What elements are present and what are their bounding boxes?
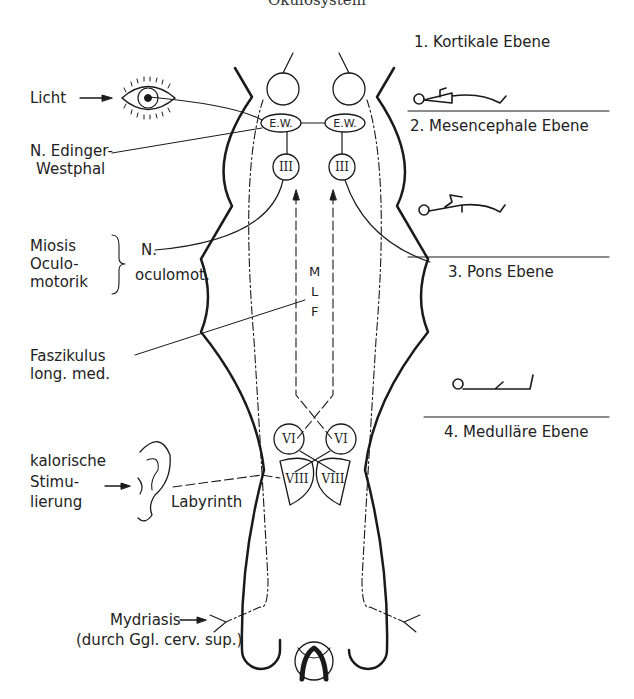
mlf-letter-l: L [311, 284, 318, 299]
mydriasis-note: (durch Ggl. cerv. sup.) [76, 631, 242, 649]
level-4-label: 4. Medulläre Ebene [444, 423, 589, 441]
edinger-label-line2: Westphal [36, 160, 105, 178]
eye-icon [122, 77, 175, 119]
cortex-right [333, 73, 365, 105]
edinger-label-line1: N. Edinger- [30, 142, 113, 160]
faszikulus-label-line2: long. med. [30, 365, 110, 383]
posture-figure-pons [453, 375, 533, 389]
miosis-label-line2: Oculo- [30, 255, 79, 273]
kalorische-label-line1: kalorische [30, 452, 106, 470]
oculomot-label: oculomot. [135, 266, 210, 284]
sympathetic-path-left [226, 100, 268, 622]
miosis-label-line1: Miosis [30, 237, 76, 255]
oculomotor-nerve-right [345, 180, 430, 262]
n-label: N. [141, 241, 157, 259]
brace-miosis [112, 235, 125, 294]
labyrinth-label: Labyrinth [171, 493, 242, 511]
svg-text:VI: VI [281, 432, 296, 446]
oculomotor-nerve-left [155, 180, 283, 250]
posture-figure-cortical [414, 88, 506, 104]
kalorische-label-line3: lierung [30, 493, 82, 511]
level-1-label: 1. Kortikale Ebene [414, 33, 550, 51]
gray-matter-butterfly [302, 648, 326, 679]
level-2-label: 2. Mesencephale Ebene [410, 117, 589, 135]
brainstem-outline-right [349, 68, 428, 669]
svg-text:VIII: VIII [321, 472, 345, 486]
svg-text:VI: VI [333, 432, 348, 446]
mydriasis-label: Mydriasis [110, 611, 181, 629]
level-3-label: 3. Pons Ebene [448, 263, 554, 281]
svg-text:III: III [279, 160, 293, 174]
svg-text:E.W.: E.W. [333, 117, 357, 130]
faszikulus-label-line1: Faszikulus [30, 347, 106, 365]
svg-text:E.W.: E.W. [269, 117, 293, 130]
mlf-letter-m: M [309, 264, 320, 279]
svg-text:III: III [335, 160, 349, 174]
licht-label: Licht [30, 89, 66, 107]
miosis-label-line3: motorik [30, 273, 88, 291]
posture-figure-mesencephal [419, 195, 505, 215]
mlf-letter-f: F [311, 304, 318, 319]
ear-icon [138, 442, 170, 521]
cortex-left [267, 73, 299, 105]
kalorische-label-line2: Stimu- [30, 473, 79, 491]
svg-text:VIII: VIII [285, 472, 309, 486]
sympathetic-path-right [362, 100, 404, 622]
